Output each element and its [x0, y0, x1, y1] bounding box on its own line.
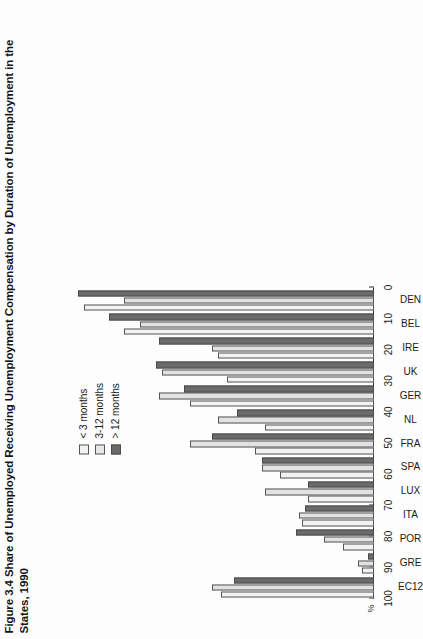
bar-ger-series-0 [190, 400, 374, 406]
category-label: UK [404, 365, 418, 376]
bar-den-series-0 [84, 304, 374, 310]
bar-spa-series-2 [262, 457, 374, 463]
bar-group: EC12 [62, 574, 374, 598]
bar-group: IRE [62, 335, 374, 359]
bar-por-series-2 [296, 529, 374, 535]
bar-group: GER [62, 383, 374, 407]
axis-unit-label: % [366, 604, 376, 612]
bar-uk-series-2 [156, 361, 374, 367]
bar-nl-series-0 [265, 424, 374, 430]
category-label: DEN [400, 293, 421, 304]
bar-group: ITA [62, 502, 374, 526]
bar-den-series-2 [78, 290, 374, 296]
bar-gre-series-0 [362, 567, 374, 573]
bar-group: BEL [62, 311, 374, 335]
bar-group: GRE [62, 550, 374, 574]
bar-ire-series-1 [212, 345, 374, 351]
bar-nl-series-1 [218, 416, 374, 422]
axis-tick-label: 60 [383, 468, 394, 479]
bar-spa-series-1 [262, 464, 374, 470]
category-label: BEL [401, 317, 420, 328]
bar-ger-series-2 [184, 385, 374, 391]
bar-uk-series-0 [227, 376, 374, 382]
axis-tick-label: 20 [383, 344, 394, 355]
bar-spa-series-0 [280, 471, 374, 477]
category-label: EC12 [398, 581, 423, 592]
bar-group: NL [62, 407, 374, 431]
bar-group: DEN [62, 287, 374, 311]
bar-por-series-0 [343, 543, 374, 549]
bar-bel-series-0 [124, 328, 374, 334]
bar-ire-series-2 [159, 337, 374, 343]
bar-ec12-series-0 [221, 591, 374, 597]
category-label: GER [400, 389, 422, 400]
bar-den-series-1 [124, 297, 374, 303]
bar-ec12-series-1 [212, 584, 374, 590]
axis-tick-label: 40 [383, 406, 394, 417]
figure-title-line-1: Figure 3.4 Share of Unemployed Receiving… [2, 33, 17, 633]
bar-gre-series-1 [358, 560, 374, 566]
category-label: SPA [401, 461, 420, 472]
axis-tick-label: 90 [383, 561, 394, 572]
axis-tick-label: 10 [383, 313, 394, 324]
bar-fra-series-2 [212, 433, 374, 439]
category-label: NL [404, 413, 417, 424]
bar-fra-series-0 [255, 447, 374, 453]
axis-tick-label: 0 [383, 284, 394, 290]
category-label: LUX [401, 485, 420, 496]
axis-tick-label: 30 [383, 375, 394, 386]
bar-lux-series-0 [308, 495, 374, 501]
bar-ita-series-0 [302, 519, 374, 525]
bar-group: LUX [62, 478, 374, 502]
bar-lux-series-1 [265, 488, 374, 494]
bar-ec12-series-2 [234, 577, 374, 583]
plot-area: % 1009080706050403020100 DENBELIREUKGERN… [62, 287, 374, 598]
category-label: GRE [400, 557, 422, 568]
bar-groups: DENBELIREUKGERNLFRASPALUXITAPORGREEC12 [62, 287, 374, 598]
bar-ger-series-1 [159, 392, 374, 398]
bar-ita-series-2 [305, 505, 374, 511]
bar-group: FRA [62, 431, 374, 455]
axis-tick-label: 100 [383, 590, 394, 607]
category-label: FRA [401, 437, 421, 448]
bar-fra-series-1 [190, 440, 374, 446]
bar-group: SPA [62, 454, 374, 478]
category-label: IRE [402, 341, 419, 352]
figure-title: Figure 3.4 Share of Unemployed Receiving… [2, 33, 32, 633]
bar-bel-series-2 [109, 313, 374, 319]
bar-group: POR [62, 526, 374, 550]
bar-por-series-1 [324, 536, 374, 542]
bar-gre-series-2 [368, 553, 374, 559]
bar-bel-series-1 [140, 321, 374, 327]
axis-tick-label: 50 [383, 437, 394, 448]
bar-ita-series-1 [299, 512, 374, 518]
category-label: POR [400, 533, 422, 544]
category-label: ITA [403, 509, 418, 520]
bar-group: UK [62, 359, 374, 383]
axis-tick-label: 80 [383, 530, 394, 541]
figure-title-line-2: States, 1990 [17, 33, 32, 633]
bar-lux-series-2 [308, 481, 374, 487]
axis-tick-label: 70 [383, 499, 394, 510]
bar-ire-series-0 [218, 352, 374, 358]
bar-nl-series-2 [237, 409, 374, 415]
bar-uk-series-1 [162, 369, 374, 375]
